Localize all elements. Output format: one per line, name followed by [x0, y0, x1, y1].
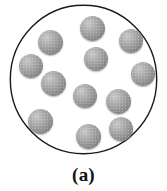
particle-sphere — [73, 84, 97, 108]
particle-sphere — [106, 89, 131, 114]
particle-sphere — [119, 29, 143, 53]
particle-sphere — [38, 30, 63, 55]
particle-sphere — [109, 117, 133, 141]
particle-sphere — [28, 109, 53, 134]
figure-caption: (a) — [0, 163, 167, 187]
particle-sphere — [84, 47, 108, 71]
particle-field — [0, 0, 167, 160]
figure-panel-a: (a) — [0, 0, 167, 191]
particle-sphere — [41, 71, 66, 96]
particle-sphere — [80, 16, 105, 41]
particle-sphere — [19, 54, 43, 78]
particle-sphere — [76, 124, 101, 149]
particle-sphere — [131, 62, 155, 86]
